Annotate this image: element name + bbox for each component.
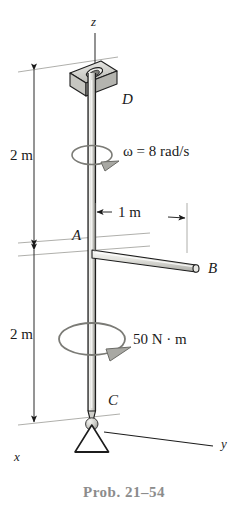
- point-label-a: A: [72, 228, 81, 243]
- axis-label-z: z: [91, 15, 96, 28]
- y-axis: [104, 432, 213, 446]
- rod-end-cap-b: [193, 265, 199, 273]
- torque-label: 50 N · m: [133, 332, 187, 347]
- problem-figure: [0, 0, 248, 516]
- axis-label-x: x: [14, 450, 20, 463]
- horizontal-rod-ab: [92, 250, 199, 272]
- extension-lines: [18, 57, 150, 425]
- omega-arrowhead: [101, 161, 119, 171]
- dimension-label-1m: 1 m: [118, 205, 141, 220]
- ball-socket-support-c: [75, 418, 109, 452]
- support-cone: [75, 425, 109, 452]
- dimension-label-lower-2m: 2 m: [10, 327, 33, 342]
- point-label-c: C: [108, 393, 118, 408]
- extension-line-a-lower: [18, 246, 150, 256]
- axis-label-y: y: [221, 437, 227, 450]
- torque-arrowhead: [106, 347, 131, 361]
- point-label-d: D: [122, 92, 133, 107]
- dimension-1m: [95, 203, 187, 253]
- vertical-shaft-dc: [88, 73, 96, 421]
- angular-velocity-label: ω = 8 rad/s: [123, 144, 189, 159]
- extension-line-a-upper: [18, 233, 150, 243]
- point-label-b: B: [208, 261, 217, 276]
- extension-line-bottom: [18, 414, 120, 425]
- dimension-label-upper-2m: 2 m: [10, 148, 33, 163]
- figure-caption: Prob. 21–54: [0, 484, 248, 501]
